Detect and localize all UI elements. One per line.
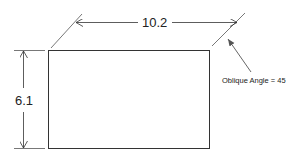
oblique-angle-label: Oblique Angle = 45: [222, 76, 286, 85]
leader-arrow: [228, 39, 251, 72]
oblique-extension-right: [212, 13, 245, 46]
oblique-dimension-diagram: 6.1 10.2 Oblique Angle = 45: [0, 0, 302, 159]
oblique-extension-left: [51, 14, 82, 48]
rectangle-shape: [49, 51, 210, 149]
height-dimension-text: 6.1: [15, 93, 33, 108]
width-dimension-text: 10.2: [142, 15, 167, 30]
